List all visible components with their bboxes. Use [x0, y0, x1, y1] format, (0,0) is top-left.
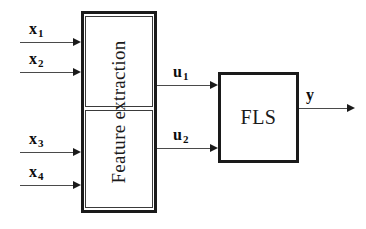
signal-arrowhead-u1	[210, 81, 218, 89]
signal-label-u1-symbol: u	[173, 63, 182, 80]
signal-label-u2-symbol: u	[173, 126, 182, 143]
input-line-x1	[20, 42, 75, 43]
input-line-x3	[20, 152, 75, 153]
input-arrowhead-x3	[73, 148, 81, 156]
input-arrowhead-x2	[73, 68, 81, 76]
output-arrowhead-y	[347, 104, 355, 112]
output-label-y-symbol: y	[306, 86, 314, 103]
signal-label-u2: u2	[173, 126, 187, 144]
input-label-x3-symbol: x	[29, 130, 37, 147]
input-arrowhead-x4	[73, 181, 81, 189]
input-label-x2: x2	[29, 50, 43, 68]
signal-line-u1	[157, 85, 212, 86]
input-label-x1-symbol: x	[29, 20, 37, 37]
fls-block[interactable]: FLS	[218, 72, 299, 163]
signal-label-u1: u1	[173, 63, 187, 81]
signal-label-u1-subscript: 1	[183, 70, 189, 82]
input-line-x2	[20, 72, 75, 73]
input-label-x4-subscript: 4	[38, 170, 44, 182]
feature-extraction-inner-bottom	[85, 110, 153, 208]
input-label-x1: x1	[29, 20, 43, 38]
input-label-x1-subscript: 1	[38, 27, 44, 39]
signal-arrowhead-u2	[210, 144, 218, 152]
input-label-x3-subscript: 3	[38, 137, 44, 149]
diagram-canvas: x1 x2 x3 x4 Feature extraction u1 u2 FLS…	[0, 0, 366, 229]
input-label-x2-symbol: x	[29, 50, 37, 67]
input-line-x4	[20, 185, 75, 186]
input-label-x2-subscript: 2	[38, 57, 44, 69]
output-line-y	[299, 108, 349, 109]
signal-label-u2-subscript: 2	[183, 133, 189, 145]
input-label-x4-symbol: x	[29, 163, 37, 180]
input-arrowhead-x1	[73, 38, 81, 46]
input-label-x4: x4	[29, 163, 43, 181]
input-label-x3: x3	[29, 130, 43, 148]
signal-line-u2	[157, 148, 212, 149]
feature-extraction-inner-top	[85, 16, 153, 107]
fls-block-label: FLS	[241, 106, 277, 129]
output-label-y: y	[306, 86, 314, 104]
